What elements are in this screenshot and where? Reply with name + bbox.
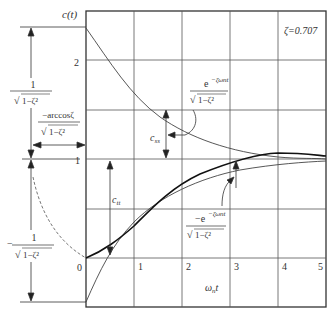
y-tick-2: 2 — [74, 57, 79, 68]
c-tt-label: ctt — [112, 194, 121, 207]
upper-envelope-curve — [86, 28, 326, 159]
lower-envelope-extension-dashed — [33, 177, 86, 258]
lower-envelope-height-label: − 1 √ 1−ζ² — [7, 232, 54, 260]
svg-text:1: 1 — [32, 232, 37, 243]
x-tick-1: 1 — [138, 261, 143, 272]
c-ss-label: css — [150, 132, 160, 145]
y-tick-0: 0 — [77, 262, 82, 273]
upper-envelope-height-label: 1 √ 1−ζ² — [10, 79, 52, 106]
svg-text:1: 1 — [31, 79, 36, 90]
svg-text:1−ζ²: 1−ζ² — [49, 127, 65, 137]
phase-offset-label: −arccosζ √ 1−ζ² — [38, 110, 80, 137]
svg-text:e: e — [204, 78, 209, 89]
svg-text:−e: −e — [195, 213, 206, 224]
step-response-diagram: c(t) 2 1 0 1 2 3 4 5 ωnt ζ=0.707 1 √ 1−ζ… — [0, 0, 333, 320]
x-tick-5: 5 — [318, 261, 323, 272]
step-response-curve — [86, 153, 326, 258]
svg-text:√: √ — [14, 95, 20, 106]
y-tick-1: 1 — [75, 155, 80, 166]
svg-text:−ζωnt: −ζωnt — [208, 210, 227, 218]
svg-text:1−ζ²: 1−ζ² — [22, 96, 38, 106]
svg-text:√: √ — [187, 229, 193, 240]
x-axis-label: ωnt — [205, 282, 219, 295]
svg-text:√: √ — [190, 94, 196, 105]
upper-envelope-formula-label: e −ζωnt √ 1−ζ² — [190, 76, 230, 105]
svg-text:−: − — [7, 238, 13, 249]
svg-text:1−ζ²: 1−ζ² — [198, 95, 214, 105]
x-tick-2: 2 — [186, 261, 191, 272]
svg-text:1−ζ²: 1−ζ² — [195, 230, 211, 240]
lower-envelope-formula-label: −e −ζωnt √ 1−ζ² — [186, 210, 227, 240]
svg-text:−ζωnt: −ζωnt — [211, 76, 230, 84]
svg-text:√: √ — [41, 126, 47, 137]
plot-grid — [86, 11, 326, 307]
zeta-parameter-label: ζ=0.707 — [284, 25, 318, 37]
x-tick-4: 4 — [282, 261, 287, 272]
svg-text:−arccosζ: −arccosζ — [42, 110, 74, 120]
svg-text:√: √ — [15, 249, 21, 260]
svg-text:1−ζ²: 1−ζ² — [23, 250, 39, 260]
x-tick-3: 3 — [234, 261, 239, 272]
dimension-lines — [20, 27, 239, 302]
y-axis-label: c(t) — [62, 8, 78, 21]
